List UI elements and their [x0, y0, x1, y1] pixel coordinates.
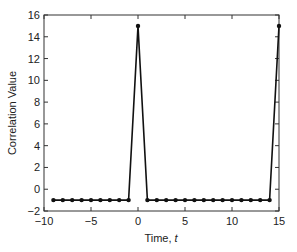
- data-point: [51, 198, 55, 202]
- y-tick-label: 16: [28, 9, 40, 21]
- y-tick-label: 0: [34, 183, 40, 195]
- axis-ticks: [44, 15, 279, 211]
- x-axis-label-variable: t: [175, 232, 179, 244]
- y-tick-label: 10: [28, 74, 40, 86]
- data-point: [98, 198, 102, 202]
- data-point: [70, 198, 74, 202]
- data-point: [267, 198, 271, 202]
- x-tick-label: −5: [85, 215, 98, 227]
- data-point: [89, 198, 93, 202]
- y-tick-label: 4: [34, 140, 40, 152]
- data-point: [155, 198, 159, 202]
- data-point: [126, 198, 130, 202]
- data-point: [61, 198, 65, 202]
- data-point: [108, 198, 112, 202]
- data-point: [239, 198, 243, 202]
- correlation-chart: −10−5051015 −20246810121416 Time, t Corr…: [0, 0, 297, 252]
- data-line: [53, 26, 279, 200]
- data-point: [79, 198, 83, 202]
- x-tick-label: 5: [182, 215, 188, 227]
- y-tick-label: 14: [28, 31, 40, 43]
- data-point: [164, 198, 168, 202]
- y-tick-label: 8: [34, 96, 40, 108]
- x-axis-label: Time, t: [144, 232, 178, 244]
- data-point: [277, 24, 281, 28]
- data-point: [117, 198, 121, 202]
- y-tick-label: −2: [27, 205, 40, 217]
- data-point: [211, 198, 215, 202]
- plot-frame: [44, 15, 279, 211]
- y-tick-label: 12: [28, 53, 40, 65]
- y-tick-label: 2: [34, 161, 40, 173]
- data-point: [258, 198, 262, 202]
- y-tick-labels: −20246810121416: [27, 9, 40, 217]
- data-point: [183, 198, 187, 202]
- data-point: [173, 198, 177, 202]
- data-point: [192, 198, 196, 202]
- data-point: [249, 198, 253, 202]
- y-axis-label: Correlation Value: [6, 71, 18, 155]
- data-point: [230, 198, 234, 202]
- data-point: [220, 198, 224, 202]
- data-point: [145, 198, 149, 202]
- data-markers: [51, 24, 281, 203]
- x-axis-label-text: Time,: [144, 232, 174, 244]
- data-point: [136, 24, 140, 28]
- x-tick-label: 15: [273, 215, 285, 227]
- y-tick-label: 6: [34, 118, 40, 130]
- x-tick-labels: −10−5051015: [35, 215, 285, 227]
- x-tick-label: 10: [226, 215, 238, 227]
- x-tick-label: 0: [135, 215, 141, 227]
- data-point: [202, 198, 206, 202]
